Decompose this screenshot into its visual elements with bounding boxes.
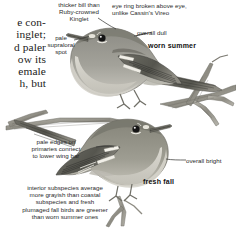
annotation-pale-edges-primaries: pale edges on primaries connect to lower… <box>17 138 95 160</box>
annotation-thicker-bill: thicker bill than Ruby-crowned Kinglet <box>44 1 114 23</box>
label-fresh-fall: fresh fall <box>143 178 203 185</box>
annotation-overall-dull: overall dull <box>137 29 197 36</box>
annotation-interior-subspecies: interior subspecies average more grayish… <box>2 184 128 220</box>
upper-branch <box>160 55 236 126</box>
annotation-eye-ring: eye ring broken above eye, unlike Cassin… <box>112 2 234 16</box>
book-line: emale <box>0 65 46 77</box>
annotation-overall-bright: overall bright <box>186 157 236 164</box>
label-worn-summer: worn summer <box>148 42 224 49</box>
field-guide-plate: e con- inglet; d paler ow its emale h, b… <box>0 0 236 228</box>
leader-overall-bright <box>166 159 186 160</box>
supraloral-spot <box>89 34 96 38</box>
book-line: e con- <box>0 16 46 28</box>
eye <box>98 34 105 41</box>
eye <box>132 125 139 132</box>
book-line: h, but <box>0 77 46 89</box>
annotation-pale-supraloral-spot: pale supraloral spot <box>40 34 82 56</box>
